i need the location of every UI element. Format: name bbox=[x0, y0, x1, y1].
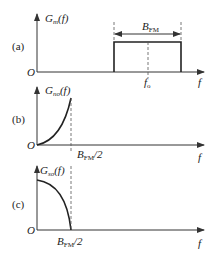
ylabel-b: Gno(f) bbox=[45, 84, 71, 98]
band-rectangle bbox=[114, 42, 181, 72]
xlabel-c: f bbox=[198, 237, 203, 249]
panel-c: Gso(f) (c) O f BFM/2 bbox=[12, 164, 204, 249]
panel-a: Gm(f) (a) O f BFM fo bbox=[12, 12, 204, 90]
ylabel-a: Gm(f) bbox=[45, 12, 69, 26]
origin-label-b: O bbox=[27, 139, 35, 151]
center-freq-label: fo bbox=[144, 76, 151, 90]
xlabel-b: f bbox=[198, 151, 203, 163]
origin-label-a: O bbox=[27, 66, 35, 78]
panel-tag-b: (b) bbox=[12, 113, 25, 126]
bandwidth-label: BFM bbox=[142, 20, 160, 34]
cutoff-label-c: BFM/2 bbox=[57, 235, 83, 249]
cutoff-label-b: BFM/2 bbox=[77, 148, 103, 162]
xlabel-a: f bbox=[198, 76, 203, 88]
ylabel-c: Gso(f) bbox=[40, 164, 65, 178]
panel-tag-a: (a) bbox=[12, 40, 25, 53]
fm-spectrum-diagram: Gm(f) (a) O f BFM fo Gno(f) (b) O f BFM/… bbox=[0, 0, 214, 257]
noise-psd-curve bbox=[37, 98, 71, 145]
signal-psd-curve bbox=[37, 180, 71, 230]
panel-b: Gno(f) (b) O f BFM/2 bbox=[12, 84, 204, 163]
panel-tag-c: (c) bbox=[12, 198, 25, 211]
origin-label-c: O bbox=[27, 224, 35, 236]
